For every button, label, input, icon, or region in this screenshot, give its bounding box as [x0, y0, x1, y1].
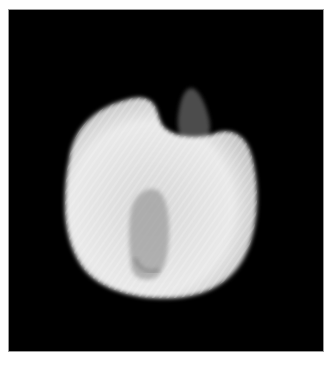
xray-image-panel — [8, 9, 324, 352]
seed-xray-specimen — [9, 10, 325, 353]
embryo-shape — [129, 189, 169, 280]
